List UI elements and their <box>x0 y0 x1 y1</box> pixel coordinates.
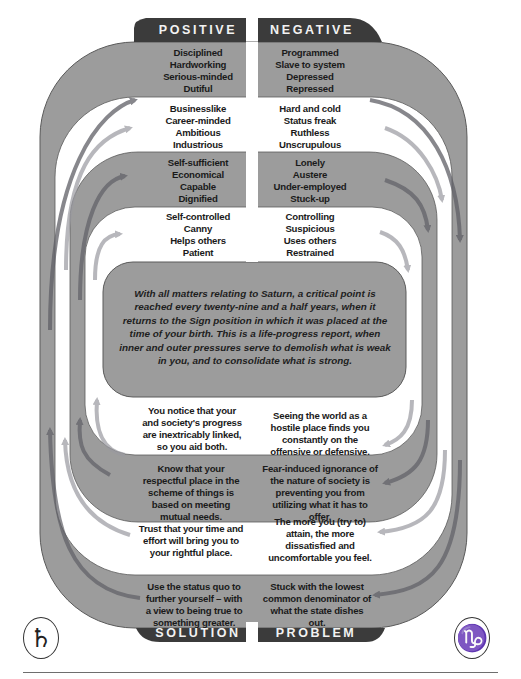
footer-rule <box>23 672 498 673</box>
solution-statement: Know that your respectful place in the s… <box>136 463 246 523</box>
trait: Career-minded <box>150 115 246 127</box>
trait: Lonely <box>262 157 358 169</box>
problem-statement: The more you (try to) attain, the more d… <box>262 516 378 564</box>
positive-label: POSITIVE <box>150 20 246 40</box>
trait: Ruthless <box>262 127 358 139</box>
positive-trait-group: Disciplined Hardworking Serious-minded D… <box>150 47 246 95</box>
trait: Uses others <box>262 235 358 247</box>
trait: Helps others <box>150 235 246 247</box>
trait: Restrained <box>262 247 358 259</box>
positive-trait-group: Self-controlled Canny Helps others Patie… <box>150 211 246 259</box>
problem-statement: Stuck with the lowest common denominator… <box>262 581 372 629</box>
problem-statement: Fear-induced ignorance of the nature of … <box>262 463 378 523</box>
trait: Suspicious <box>262 223 358 235</box>
positive-trait-group: Self-sufficient Economical Capable Digni… <box>150 157 246 205</box>
trait: Status freak <box>262 115 358 127</box>
negative-trait-group: Hard and cold Status freak Ruthless Unsc… <box>262 103 358 151</box>
trait: Serious-minded <box>150 71 246 83</box>
trait: Disciplined <box>150 47 246 59</box>
trait: Dutiful <box>150 83 246 95</box>
trait: Patient <box>150 247 246 259</box>
trait: Unscrupulous <box>262 139 358 151</box>
trait: Dignified <box>150 193 246 205</box>
trait: Industrious <box>150 139 246 151</box>
trait: Self-sufficient <box>150 157 246 169</box>
trait: Businesslike <box>150 103 246 115</box>
negative-trait-group: Programmed Slave to system Depressed Rep… <box>262 47 358 95</box>
trait: Controlling <box>262 211 358 223</box>
negative-trait-group: Controlling Suspicious Uses others Restr… <box>262 211 358 259</box>
solution-statement: Use the status quo to further yourself –… <box>145 581 243 629</box>
trait: Repressed <box>262 83 358 95</box>
trait: Programmed <box>262 47 358 59</box>
trait: Stuck-up <box>262 193 358 205</box>
solution-statement: Trust that your time and effort will bri… <box>136 523 246 559</box>
trait: Capable <box>150 181 246 193</box>
trait: Hardworking <box>150 59 246 71</box>
saturn-center-description: With all matters relating to Saturn, a c… <box>118 287 392 367</box>
capricorn-glyph-icon: ♑ <box>454 617 490 659</box>
trait: Slave to system <box>262 59 358 71</box>
trait: Hard and cold <box>262 103 358 115</box>
negative-trait-group: Lonely Austere Under-employed Stuck-up <box>262 157 358 205</box>
solution-statement: You notice that your and society's progr… <box>140 405 244 453</box>
saturn-glyph-icon: ♄ <box>23 617 59 659</box>
trait: Under-employed <box>262 181 358 193</box>
trait: Canny <box>150 223 246 235</box>
trait: Economical <box>150 169 246 181</box>
trait: Austere <box>262 169 358 181</box>
negative-label: NEGATIVE <box>262 20 362 40</box>
trait: Depressed <box>262 71 358 83</box>
trait: Ambitious <box>150 127 246 139</box>
problem-statement: Seeing the world as a hostile place find… <box>262 410 378 458</box>
positive-trait-group: Businesslike Career-minded Ambitious Ind… <box>150 103 246 151</box>
trait: Self-controlled <box>150 211 246 223</box>
